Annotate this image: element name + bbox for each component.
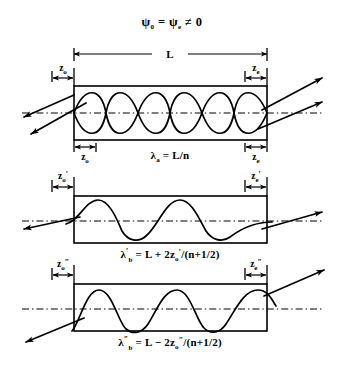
panel-b-doubleprime-left-tick-label: zo″ <box>57 258 69 272</box>
title-psi-e: ψ <box>169 15 178 29</box>
panel-b-doubleprime-ray-right <box>264 270 324 296</box>
panel-a-bottom-right-label: ze <box>252 152 259 165</box>
title-psi-zero: ψ <box>142 15 151 29</box>
panel-b-prime-wave <box>66 200 272 240</box>
panel-b-prime-left-tick-label: zo′ <box>58 170 68 184</box>
panel-a-bottom-left-label: zo <box>81 152 89 165</box>
dimension-L-label: L <box>166 48 173 60</box>
panel-a-top-dimensions: zo ze <box>52 63 267 86</box>
panel-a-right-tick-label: ze <box>252 63 259 76</box>
panel-b-doubleprime-ray-left <box>26 318 84 342</box>
figure-title: ψ0 = ψe ≠ 0 <box>142 15 203 31</box>
panel-b-prime-right-tick-label: ze′ <box>251 170 261 184</box>
panel-b-prime-top-dimensions: zo′ ze′ <box>52 170 267 197</box>
panel-a-formula: λa = L/n <box>151 149 190 164</box>
waveguide-mode-diagram: ψ0 = ψe ≠ 0 L zo ze <box>0 0 345 365</box>
panel-a-cavity <box>22 78 322 140</box>
panel-b-doubleprime-top-dimensions: zo″ ze″ <box>52 258 267 285</box>
panel-a-left-tick-label: zo <box>59 63 67 76</box>
dimension-L: L <box>74 48 267 61</box>
panel-a-ray-left-lower <box>31 103 86 134</box>
panel-b-prime-cavity <box>22 196 322 243</box>
panel-b-prime-formula: λ′b = L + 2zo′/(n+1/2) <box>120 247 219 264</box>
panel-b-doubleprime-formula: λ″b = L − 2zo″/(n+1/2) <box>118 335 222 352</box>
figure-root: ψ0 = ψe ≠ 0 L zo ze <box>0 0 345 365</box>
panel-b-doubleprime-wave <box>72 290 276 332</box>
panel-b-prime-ray-left <box>24 217 80 229</box>
panel-b-doubleprime-cavity <box>22 270 324 342</box>
panel-b-doubleprime-right-tick-label: ze″ <box>250 258 262 272</box>
panel-b-prime-box <box>74 196 267 243</box>
